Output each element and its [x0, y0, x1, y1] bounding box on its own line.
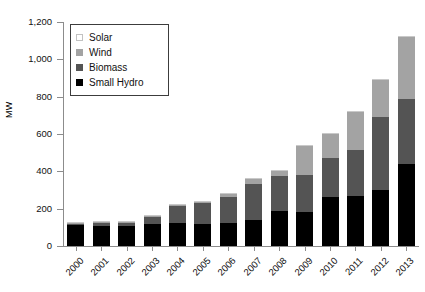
y-tick-label: 200 — [4, 204, 52, 213]
x-tick — [381, 246, 382, 251]
y-tick-label: 1,200 — [4, 17, 52, 26]
bar-segment-small-hydro — [372, 190, 389, 246]
y-tick — [57, 22, 63, 23]
y-tick-label: 600 — [4, 129, 52, 138]
y-tick — [57, 59, 63, 60]
bar-segment-biomass — [271, 176, 288, 211]
bar-2001 — [93, 221, 110, 246]
bar-segment-biomass — [169, 206, 186, 223]
bar-segment-small-hydro — [347, 196, 364, 246]
bar-segment-biomass — [347, 150, 364, 196]
bar-segment-small-hydro — [296, 212, 313, 246]
bar-2011 — [347, 111, 364, 246]
legend-label-solar: Solar — [89, 33, 112, 43]
bar-segment-small-hydro — [118, 226, 135, 246]
solar-swatch-icon — [76, 34, 83, 41]
legend-item-small-hydro: Small Hydro — [76, 75, 162, 90]
bar-2006 — [220, 193, 237, 246]
bar-segment-small-hydro — [194, 224, 211, 246]
wind-swatch-icon — [76, 49, 83, 56]
x-tick — [127, 246, 128, 251]
x-tick — [228, 246, 229, 251]
y-tick-label: 0 — [4, 241, 52, 250]
y-tick — [57, 246, 63, 247]
bar-segment-biomass — [296, 175, 313, 212]
legend-item-solar: Solar — [76, 30, 162, 45]
bar-segment-small-hydro — [220, 223, 237, 246]
bar-segment-biomass — [322, 158, 339, 197]
bar-segment-small-hydro — [144, 224, 161, 246]
y-tick — [57, 97, 63, 98]
bar-segment-wind — [398, 37, 415, 99]
x-tick-label: 2001 — [83, 255, 111, 283]
bar-segment-small-hydro — [245, 220, 262, 246]
x-tick — [254, 246, 255, 251]
x-tick-label: 2000 — [58, 255, 86, 283]
bar-segment-small-hydro — [169, 223, 186, 246]
x-tick — [305, 246, 306, 251]
legend-item-wind: Wind — [76, 45, 162, 60]
bar-segment-small-hydro — [271, 211, 288, 246]
legend-label-biomass: Biomass — [89, 63, 127, 73]
bar-segment-wind — [322, 134, 339, 158]
bar-segment-small-hydro — [67, 225, 84, 246]
x-tick — [152, 246, 153, 251]
bar-2002 — [118, 221, 135, 246]
legend-label-small-hydro: Small Hydro — [89, 78, 143, 88]
x-tick — [177, 246, 178, 251]
bar-2000 — [67, 222, 84, 246]
small-hydro-swatch-icon — [76, 79, 83, 86]
bar-segment-wind — [296, 146, 313, 175]
bar-2012 — [372, 79, 389, 246]
bar-segment-small-hydro — [398, 164, 415, 246]
y-tick — [57, 171, 63, 172]
y-tick-label: 1,000 — [4, 54, 52, 63]
bar-segment-biomass — [144, 217, 161, 224]
bar-segment-biomass — [220, 197, 237, 223]
y-tick-label: 400 — [4, 166, 52, 175]
bar-segment-biomass — [372, 117, 389, 190]
x-tick-label: 2008 — [261, 255, 289, 283]
y-tick-label: 800 — [4, 92, 52, 101]
plot-area: 02004006008001,0001,20020002001200220032… — [0, 0, 425, 292]
x-tick — [203, 246, 204, 251]
bar-segment-small-hydro — [322, 197, 339, 246]
bar-segment-biomass — [194, 203, 211, 224]
bar-2003 — [144, 215, 161, 246]
bar-2005 — [194, 201, 211, 246]
x-tick — [101, 246, 102, 251]
x-tick — [76, 246, 77, 251]
x-tick-label: 2003 — [134, 255, 162, 283]
x-tick-label: 2007 — [236, 255, 264, 283]
chart-legend: Solar Wind Biomass Small Hydro — [70, 24, 169, 96]
x-tick — [355, 246, 356, 251]
x-tick-label: 2011 — [338, 255, 366, 283]
legend-item-biomass: Biomass — [76, 60, 162, 75]
bar-2013 — [398, 36, 415, 246]
x-tick-label: 2009 — [287, 255, 315, 283]
x-tick-label: 2004 — [160, 255, 188, 283]
bar-segment-small-hydro — [93, 226, 110, 246]
bar-2008 — [271, 170, 288, 246]
bar-2009 — [296, 145, 313, 246]
y-tick — [57, 209, 63, 210]
bar-segment-biomass — [245, 184, 262, 219]
bar-2007 — [245, 178, 262, 246]
x-tick — [279, 246, 280, 251]
x-tick-label: 2013 — [388, 255, 416, 283]
bar-segment-biomass — [398, 99, 415, 164]
y-tick — [57, 134, 63, 135]
stacked-bar-chart: MW 02004006008001,0001,20020002001200220… — [0, 0, 425, 292]
x-tick-label: 2005 — [185, 255, 213, 283]
bar-2010 — [322, 133, 339, 246]
legend-label-wind: Wind — [89, 48, 112, 58]
bar-2004 — [169, 204, 186, 246]
biomass-swatch-icon — [76, 64, 83, 71]
x-tick — [406, 246, 407, 251]
bar-segment-wind — [347, 112, 364, 150]
x-tick-label: 2010 — [312, 255, 340, 283]
bar-segment-wind — [372, 80, 389, 117]
x-tick-label: 2006 — [210, 255, 238, 283]
x-tick-label: 2012 — [363, 255, 391, 283]
x-tick-label: 2002 — [109, 255, 137, 283]
